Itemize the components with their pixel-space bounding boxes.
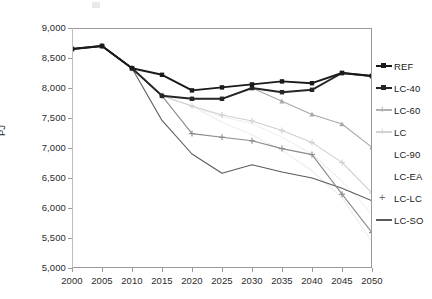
series-line-lc-90 <box>72 46 372 242</box>
y-tick-label: 7,500 <box>20 112 66 123</box>
data-point <box>160 94 164 98</box>
legend-marker-icon <box>376 170 392 182</box>
legend-square-icon <box>381 85 386 90</box>
series-lines <box>72 28 372 268</box>
series-line-lc-40 <box>72 46 372 99</box>
x-tick <box>72 268 73 272</box>
y-tick <box>68 88 72 89</box>
data-point <box>280 79 284 83</box>
y-tick <box>68 208 72 209</box>
legend-label: LC-60 <box>394 105 420 116</box>
data-point <box>220 85 224 89</box>
y-tick <box>68 28 72 29</box>
series-line-lc-ea <box>72 46 372 214</box>
y-tick-label: 8,500 <box>20 52 66 63</box>
legend-item-lc-60[interactable]: +LC-60 <box>376 99 432 121</box>
legend-marker-icon <box>376 82 392 94</box>
series-line-ref <box>72 46 372 90</box>
x-tick <box>132 268 133 272</box>
legend-item-lc-90[interactable]: LC-90 <box>376 143 432 165</box>
plot-frame-right <box>371 28 372 268</box>
y-tick-label: 8,000 <box>20 82 66 93</box>
legend-label: LC-40 <box>394 83 420 94</box>
legend-marker-icon <box>376 60 392 72</box>
data-point <box>340 71 344 75</box>
data-point <box>220 97 224 101</box>
x-tick <box>372 268 373 272</box>
data-point <box>310 81 314 85</box>
x-tick <box>252 268 253 272</box>
plot-area <box>72 28 372 268</box>
legend-marker-icon <box>376 148 392 160</box>
legend-item-lc-lc[interactable]: +LC-LC <box>376 187 432 209</box>
x-tick <box>222 268 223 272</box>
data-point <box>190 97 194 101</box>
legend-marker-icon: + <box>376 104 392 116</box>
legend-plus-icon: + <box>379 103 385 115</box>
y-tick-label: 7,000 <box>20 142 66 153</box>
top-artifact <box>92 2 100 8</box>
y-tick-label: 9,000 <box>20 22 66 33</box>
series-line-lc-so <box>72 46 372 201</box>
data-point <box>160 73 164 77</box>
legend-marker-icon <box>376 214 392 226</box>
y-tick <box>68 178 72 179</box>
legend-label: LC-90 <box>394 149 420 160</box>
legend-label: LC-SO <box>394 215 424 226</box>
legend-marker-icon: + <box>376 192 392 204</box>
plot-frame-top <box>72 28 372 29</box>
y-tick <box>68 238 72 239</box>
legend-plus-icon: + <box>379 125 385 137</box>
y-axis-title: PJ <box>0 125 7 136</box>
y-tick <box>68 58 72 59</box>
legend-plus-icon: + <box>379 191 385 203</box>
x-tick <box>282 268 283 272</box>
y-axis-line <box>72 28 73 268</box>
legend-item-lc[interactable]: +LC <box>376 121 432 143</box>
legend-square-icon <box>381 63 386 68</box>
legend-item-ref[interactable]: REF <box>376 55 432 77</box>
x-tick <box>102 268 103 272</box>
x-tick <box>162 268 163 272</box>
x-tick <box>342 268 343 272</box>
legend-line-icon <box>376 219 392 221</box>
legend-label: LC-EA <box>394 171 422 182</box>
y-tick-label: 6,000 <box>20 202 66 213</box>
data-point <box>250 82 254 86</box>
legend-label: REF <box>394 61 413 72</box>
chart-screenshot: 9,0008,5008,0007,5007,0006,5006,0005,500… <box>0 0 432 299</box>
chart-legend: REFLC-40+LC-60+LCLC-90LC-EA+LC-LCLC-SO <box>376 55 432 231</box>
data-point <box>190 88 194 92</box>
y-tick-label: 6,500 <box>20 172 66 183</box>
legend-label: LC-LC <box>394 193 422 204</box>
y-tick-label: 5,000 <box>20 262 66 273</box>
y-tick <box>68 148 72 149</box>
legend-label: LC <box>394 127 406 138</box>
y-tick-label: 5,500 <box>20 232 66 243</box>
x-tick <box>312 268 313 272</box>
y-tick <box>68 118 72 119</box>
data-point <box>280 90 284 94</box>
data-point <box>130 66 134 70</box>
legend-item-lc-ea[interactable]: LC-EA <box>376 165 432 187</box>
legend-item-lc-so[interactable]: LC-SO <box>376 209 432 231</box>
data-point <box>310 88 314 92</box>
x-tick-label: 2050 <box>352 275 392 286</box>
data-point <box>100 44 104 48</box>
legend-marker-icon: + <box>376 126 392 138</box>
x-tick <box>192 268 193 272</box>
legend-item-lc-40[interactable]: LC-40 <box>376 77 432 99</box>
